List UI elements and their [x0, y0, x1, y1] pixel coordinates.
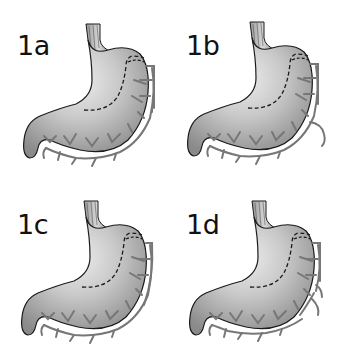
panel-label-1d: 1d — [186, 211, 219, 238]
panel-1b: 1b — [172, 0, 344, 181]
stomach-illustration-1a — [0, 0, 172, 181]
panel-1d: 1d — [172, 181, 344, 362]
figure-grid: 1a — [0, 0, 344, 362]
panel-1c: 1c — [0, 181, 172, 362]
panel-label-1c: 1c — [17, 211, 48, 238]
stomach-illustration-1b — [172, 0, 344, 181]
panel-1a: 1a — [0, 0, 172, 181]
panel-label-1b: 1b — [186, 32, 219, 59]
panel-label-1a: 1a — [17, 32, 50, 59]
